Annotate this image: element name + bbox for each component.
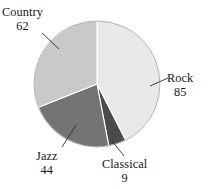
slice-label-jazz: Jazz 44 bbox=[36, 150, 58, 178]
slice-label-country-name: Country bbox=[2, 6, 43, 20]
slice-label-classical: Classical 9 bbox=[102, 158, 147, 186]
slice-label-country: Country 62 bbox=[2, 6, 43, 34]
pie-slices-group bbox=[34, 21, 160, 147]
slice-label-jazz-name: Jazz bbox=[36, 150, 58, 164]
slice-label-classical-name: Classical bbox=[102, 158, 147, 172]
slice-label-rock: Rock 85 bbox=[167, 72, 193, 100]
slice-label-jazz-value: 44 bbox=[36, 164, 58, 178]
slice-label-rock-value: 85 bbox=[167, 86, 193, 100]
slice-label-classical-value: 9 bbox=[102, 172, 147, 186]
pie-chart-figure: Country 62 Rock 85 Jazz 44 Classical 9 bbox=[0, 0, 216, 189]
slice-label-country-value: 62 bbox=[2, 20, 43, 34]
slice-label-rock-name: Rock bbox=[167, 72, 193, 86]
